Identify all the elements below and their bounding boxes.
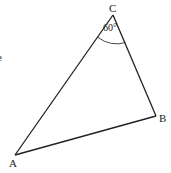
- angle-label: 60°: [103, 22, 117, 33]
- side-cb: [113, 15, 156, 116]
- side-ca: [15, 15, 113, 155]
- cropped-text-fragment: e: [0, 51, 2, 63]
- vertex-label-a: A: [9, 157, 17, 169]
- side-ab: [15, 116, 156, 155]
- triangle-diagram: 60° C B A e: [0, 0, 171, 173]
- angle-arc-c: [98, 37, 126, 44]
- vertex-label-b: B: [159, 112, 166, 124]
- vertex-label-c: C: [109, 2, 116, 14]
